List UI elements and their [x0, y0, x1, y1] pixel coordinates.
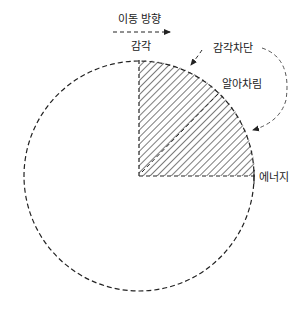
cycle-diagram: 이동 방향 감각 감각차단 알아차림 에너지: [0, 0, 307, 310]
label-awareness: 알아차림: [222, 77, 262, 91]
label-sensation-block: 감각차단: [213, 42, 253, 55]
label-sensation: 감각: [131, 40, 151, 53]
direction-label: 이동 방향: [118, 13, 162, 26]
label-energy: 에너지: [259, 171, 289, 184]
block-arrow-left-icon: [191, 50, 202, 65]
